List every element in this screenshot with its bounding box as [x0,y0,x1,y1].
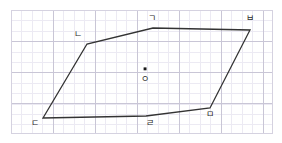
vertex-label-n: ㄴ [74,30,82,39]
vertex-label-a: ㄱ [148,14,156,23]
hexagon-outline [43,28,250,118]
geometry-figure [0,0,282,143]
vertex-label-d: ㄷ [31,119,39,128]
center-dot-icon [144,67,147,70]
vertex-label-b: ㅂ [246,14,254,23]
figure-screenshot: ㄱ ㅂ ㅁ ㄹ ㄷ ㄴ ㅇ [0,0,282,143]
vertex-label-m: ㅁ [206,110,214,119]
center-point-label: ㅇ [141,75,149,84]
vertex-label-r: ㄹ [146,119,154,128]
